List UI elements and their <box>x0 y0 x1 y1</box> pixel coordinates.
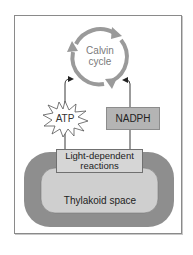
nadph-label: NADPH <box>115 113 150 124</box>
diagram-canvas: Calvin cycle ATP NADPH Light-dependent r… <box>0 0 193 255</box>
thylakoid-space <box>41 168 158 213</box>
arrowhead-bottom-right-icon <box>105 78 117 89</box>
calvin-cycle-label: Calvin cycle <box>78 45 122 67</box>
thylakoid-space-label: Thylakoid space <box>42 195 158 206</box>
light-dependent-label-line2: reactions <box>80 161 119 171</box>
calvin-cycle-label-line2: cycle <box>78 56 122 67</box>
nadph-arrowhead-icon <box>122 77 128 83</box>
calvin-cycle-label-line1: Calvin <box>78 45 122 56</box>
diagram-graphics <box>0 0 193 255</box>
arrowhead-top-right-icon <box>111 27 122 39</box>
light-dependent-reactions-box: Light-dependent reactions <box>56 149 143 173</box>
atp-arrowhead-icon <box>68 76 74 82</box>
atp-label: ATP <box>50 113 80 124</box>
nadph-box: NADPH <box>106 107 160 130</box>
